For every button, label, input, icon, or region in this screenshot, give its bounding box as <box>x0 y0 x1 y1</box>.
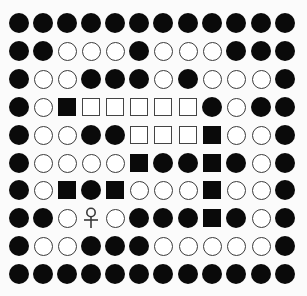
black-square-tile[interactable] <box>58 181 76 199</box>
black-circle-tile[interactable] <box>226 41 246 61</box>
black-circle-tile[interactable] <box>33 208 53 228</box>
player-ankh-icon[interactable] <box>81 207 101 229</box>
white-circle-tile[interactable] <box>106 42 125 61</box>
black-circle-tile[interactable] <box>9 180 29 200</box>
white-circle-tile[interactable] <box>203 42 222 61</box>
black-circle-tile[interactable] <box>178 153 198 173</box>
black-square-tile[interactable] <box>58 98 76 116</box>
white-square-tile[interactable] <box>106 98 124 116</box>
black-circle-tile[interactable] <box>9 97 29 117</box>
black-circle-tile[interactable] <box>105 125 125 145</box>
black-circle-tile[interactable] <box>9 125 29 145</box>
white-circle-tile[interactable] <box>252 209 271 228</box>
white-circle-tile[interactable] <box>34 181 53 200</box>
white-circle-tile[interactable] <box>58 70 77 89</box>
black-circle-tile[interactable] <box>33 264 53 284</box>
white-circle-tile[interactable] <box>252 126 271 145</box>
black-circle-tile[interactable] <box>226 13 246 33</box>
black-circle-tile[interactable] <box>129 41 149 61</box>
black-circle-tile[interactable] <box>9 153 29 173</box>
white-circle-tile[interactable] <box>58 42 77 61</box>
black-circle-tile[interactable] <box>275 208 295 228</box>
white-circle-tile[interactable] <box>179 42 198 61</box>
white-circle-tile[interactable] <box>227 126 246 145</box>
black-circle-tile[interactable] <box>153 153 173 173</box>
black-circle-tile[interactable] <box>105 13 125 33</box>
white-circle-tile[interactable] <box>154 181 173 200</box>
black-circle-tile[interactable] <box>9 69 29 89</box>
white-circle-tile[interactable] <box>82 154 101 173</box>
white-circle-tile[interactable] <box>203 70 222 89</box>
black-circle-tile[interactable] <box>251 41 271 61</box>
white-circle-tile[interactable] <box>227 70 246 89</box>
white-circle-tile[interactable] <box>154 237 173 256</box>
black-circle-tile[interactable] <box>251 264 271 284</box>
black-square-tile[interactable] <box>203 154 221 172</box>
black-circle-tile[interactable] <box>57 13 77 33</box>
black-circle-tile[interactable] <box>275 264 295 284</box>
black-circle-tile[interactable] <box>129 264 149 284</box>
white-circle-tile[interactable] <box>58 209 77 228</box>
white-circle-tile[interactable] <box>227 237 246 256</box>
black-circle-tile[interactable] <box>153 208 173 228</box>
black-circle-tile[interactable] <box>251 97 271 117</box>
white-circle-tile[interactable] <box>34 70 53 89</box>
black-circle-tile[interactable] <box>202 264 222 284</box>
white-circle-tile[interactable] <box>130 181 149 200</box>
black-circle-tile[interactable] <box>9 264 29 284</box>
black-circle-tile[interactable] <box>153 13 173 33</box>
black-square-tile[interactable] <box>203 181 221 199</box>
black-circle-tile[interactable] <box>9 236 29 256</box>
white-circle-tile[interactable] <box>227 181 246 200</box>
white-circle-tile[interactable] <box>252 237 271 256</box>
white-circle-tile[interactable] <box>34 154 53 173</box>
black-circle-tile[interactable] <box>105 69 125 89</box>
black-circle-tile[interactable] <box>57 264 77 284</box>
white-circle-tile[interactable] <box>203 237 222 256</box>
black-circle-tile[interactable] <box>275 41 295 61</box>
white-square-tile[interactable] <box>154 98 172 116</box>
black-circle-tile[interactable] <box>275 13 295 33</box>
white-square-tile[interactable] <box>154 126 172 144</box>
black-circle-tile[interactable] <box>33 13 53 33</box>
black-circle-tile[interactable] <box>275 69 295 89</box>
white-circle-tile[interactable] <box>154 42 173 61</box>
black-circle-tile[interactable] <box>105 236 125 256</box>
white-circle-tile[interactable] <box>179 181 198 200</box>
black-square-tile[interactable] <box>203 209 221 227</box>
white-square-tile[interactable] <box>130 126 148 144</box>
black-circle-tile[interactable] <box>33 41 53 61</box>
black-circle-tile[interactable] <box>226 153 246 173</box>
black-circle-tile[interactable] <box>275 97 295 117</box>
black-circle-tile[interactable] <box>202 13 222 33</box>
black-circle-tile[interactable] <box>129 208 149 228</box>
white-circle-tile[interactable] <box>154 70 173 89</box>
black-circle-tile[interactable] <box>9 208 29 228</box>
black-circle-tile[interactable] <box>153 264 173 284</box>
black-square-tile[interactable] <box>203 126 221 144</box>
black-square-tile[interactable] <box>130 154 148 172</box>
white-circle-tile[interactable] <box>34 98 53 117</box>
black-circle-tile[interactable] <box>129 13 149 33</box>
white-circle-tile[interactable] <box>252 70 271 89</box>
white-circle-tile[interactable] <box>106 154 125 173</box>
white-circle-tile[interactable] <box>106 209 125 228</box>
black-circle-tile[interactable] <box>275 125 295 145</box>
white-circle-tile[interactable] <box>58 237 77 256</box>
black-circle-tile[interactable] <box>202 97 222 117</box>
black-circle-tile[interactable] <box>275 153 295 173</box>
black-circle-tile[interactable] <box>81 180 101 200</box>
white-square-tile[interactable] <box>130 98 148 116</box>
white-square-tile[interactable] <box>82 98 100 116</box>
black-circle-tile[interactable] <box>178 69 198 89</box>
white-circle-tile[interactable] <box>82 42 101 61</box>
white-circle-tile[interactable] <box>227 98 246 117</box>
black-circle-tile[interactable] <box>81 264 101 284</box>
black-circle-tile[interactable] <box>275 180 295 200</box>
black-circle-tile[interactable] <box>129 69 149 89</box>
white-circle-tile[interactable] <box>34 126 53 145</box>
black-circle-tile[interactable] <box>226 208 246 228</box>
black-circle-tile[interactable] <box>9 13 29 33</box>
black-circle-tile[interactable] <box>226 264 246 284</box>
white-circle-tile[interactable] <box>252 154 271 173</box>
